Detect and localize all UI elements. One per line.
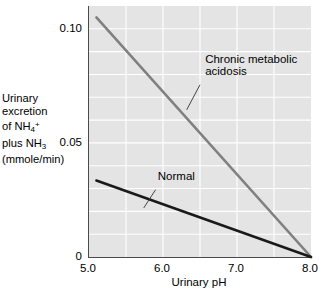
y-axis-label-line-1: Urinary: [2, 92, 80, 105]
x-tick-label: 5.0: [68, 263, 108, 275]
x-tick-label: 6.0: [142, 263, 182, 275]
y-axis-label-line-3: of NH4+: [2, 118, 80, 136]
y-axis-label-line-2: excretion: [2, 105, 80, 118]
y-axis-label-line-4: plus NH3: [2, 137, 80, 153]
y-tick-label: 0: [40, 251, 82, 263]
x-tick-label: 7.0: [216, 263, 256, 275]
x-tick-label: 8.0: [290, 263, 322, 275]
y-axis-label: Urinary excretion of NH4+ plus NH3 (mmol…: [2, 92, 80, 166]
annotation-chronic-metabolic-acidosis: Chronic metabolicacidosis: [205, 53, 297, 78]
y-axis-label-line-5: (mmole/min): [2, 153, 80, 166]
annotation-leader-lines: [89, 6, 311, 257]
chart-figure: 00.050.10 Urinary excretion of NH4+ plus…: [0, 0, 322, 294]
annotation-normal: Normal: [158, 170, 195, 183]
x-axis-label: Urinary pH: [88, 276, 310, 288]
plot-area: Chronic metabolicacidosisNormal: [88, 6, 311, 258]
annotation-line: Normal: [158, 170, 195, 183]
y-tick-label: 0.10: [40, 23, 82, 35]
annotation-line: acidosis: [205, 65, 297, 78]
annotation-line: Chronic metabolic: [205, 53, 297, 66]
